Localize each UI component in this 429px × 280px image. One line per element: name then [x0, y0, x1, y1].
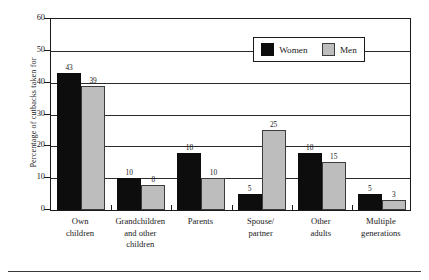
y-axis-tick-label: 20	[15, 140, 45, 149]
x-axis-tick-mark	[292, 205, 293, 210]
bar-women-3	[238, 194, 262, 210]
bar-value-label: 18	[173, 143, 205, 152]
x-axis-tick-mark	[111, 205, 112, 210]
bar-value-label: 43	[53, 63, 85, 72]
bar-chart-figure: Percentage of cutbacks taken for 0102030…	[0, 0, 429, 280]
bar-men-5	[382, 200, 406, 210]
bar-men-0	[81, 86, 105, 210]
bar-value-label: 8	[137, 175, 169, 184]
y-axis-tick-label: 0	[15, 204, 45, 213]
legend-label-men: Men	[340, 45, 357, 55]
legend-label-women: Women	[279, 45, 307, 55]
gray-square-swatch	[322, 43, 335, 56]
bar-value-label: 3	[378, 190, 410, 199]
chart-legend: Women Men	[253, 37, 365, 62]
footer-divider	[8, 271, 421, 272]
category-label-line: children	[100, 239, 180, 251]
bar-men-2	[201, 178, 225, 210]
bar-men-3	[262, 130, 286, 210]
y-axis-tick-label: 50	[15, 45, 45, 54]
bar-men-4	[322, 162, 346, 210]
bar-women-2	[177, 153, 201, 210]
bar-men-1	[141, 185, 165, 210]
legend-entry-women: Women	[261, 43, 307, 56]
category-label-line: generations	[341, 228, 421, 240]
category-label-line: Multiple	[341, 216, 421, 228]
bar-value-label: 15	[318, 152, 350, 161]
category-label-line: and other	[100, 228, 180, 240]
black-square-swatch	[261, 43, 274, 56]
bar-value-label: 18	[294, 143, 326, 152]
x-axis-tick-mark	[232, 205, 233, 210]
bar-value-label: 39	[77, 76, 109, 85]
x-axis-tick-mark	[171, 205, 172, 210]
legend-entry-men: Men	[322, 43, 357, 56]
bar-value-label: 25	[258, 120, 290, 129]
y-axis-tick-label: 40	[15, 77, 45, 86]
x-axis-category-label: Multiplegenerations	[341, 216, 421, 239]
y-axis-tick-label: 60	[15, 13, 45, 22]
bar-women-0	[57, 73, 81, 210]
bar-women-4	[298, 153, 322, 210]
y-axis-tick-label: 30	[15, 109, 45, 118]
x-axis-tick-mark	[352, 205, 353, 210]
y-axis-tick-label: 10	[15, 172, 45, 181]
bar-value-label: 10	[197, 168, 229, 177]
